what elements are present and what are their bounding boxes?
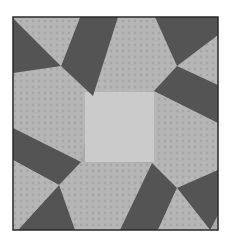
center-square [85, 92, 154, 162]
quilt-block [0, 0, 230, 241]
